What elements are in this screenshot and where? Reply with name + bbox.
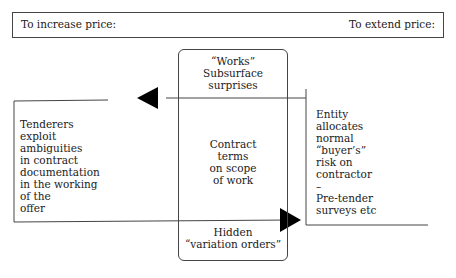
text-line: on scope: [178, 162, 288, 174]
center-top-text: “Works” Subsurface surprises: [178, 55, 288, 91]
text-line: “variation orders”: [178, 238, 288, 250]
text-line: in contract: [20, 154, 100, 166]
text-line: of the: [20, 190, 100, 202]
text-line: offer: [20, 202, 100, 214]
text-line: ambiguities: [20, 142, 100, 154]
text-line: surveys etc: [316, 204, 376, 216]
center-box: “Works” Subsurface surprises Contract te…: [178, 49, 288, 261]
text-line: of work: [178, 174, 288, 186]
text-line: surprises: [178, 79, 288, 91]
text-line: “Works”: [178, 55, 288, 67]
text-line: Entity: [316, 108, 376, 120]
text-line: exploit: [20, 130, 100, 142]
left-box-text: Tenderers exploit ambiguities in contrac…: [20, 118, 100, 214]
text-line: Pre-tender: [316, 192, 376, 204]
header-left-label: To increase price:: [21, 18, 116, 30]
text-line: terms: [178, 150, 288, 162]
text-line: Hidden: [178, 226, 288, 238]
center-bottom-text: Hidden “variation orders”: [178, 226, 288, 250]
header-right-label: To extend price:: [349, 18, 435, 30]
text-line: “buyer’s”: [316, 144, 376, 156]
text-line: in the working: [20, 178, 100, 190]
center-middle-text: Contract terms on scope of work: [178, 138, 288, 186]
arrow-left-icon: [137, 87, 158, 109]
text-line: contractor: [316, 168, 376, 180]
header-box: To increase price: To extend price:: [12, 12, 444, 38]
text-line: –: [316, 180, 376, 192]
text-line: Subsurface: [178, 67, 288, 79]
text-line: documentation: [20, 166, 100, 178]
text-line: allocates: [316, 120, 376, 132]
text-line: normal: [316, 132, 376, 144]
text-line: Tenderers: [20, 118, 100, 130]
text-line: risk on: [316, 156, 376, 168]
right-box-text: Entity allocates normal “buyer’s” risk o…: [316, 108, 376, 216]
text-line: Contract: [178, 138, 288, 150]
